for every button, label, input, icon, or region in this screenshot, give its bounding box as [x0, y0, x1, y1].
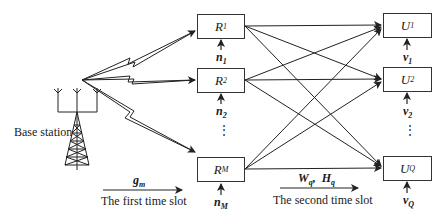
user-name: U [400, 161, 409, 177]
relay-sub: 2 [223, 76, 227, 85]
user-name: U [401, 18, 410, 34]
wireless-links [82, 31, 195, 152]
second-slot-channels: Wq, Hq [298, 171, 335, 187]
relay-noise-2: n2 [216, 104, 227, 120]
relay-name: R [215, 73, 223, 89]
user-sub: 2 [410, 75, 414, 84]
user-node-1: U1 [383, 13, 432, 38]
user-sub: 1 [410, 21, 414, 30]
relay-node-2: R2 [197, 68, 245, 93]
relay-name: R [214, 162, 222, 178]
user-noise-q: vQ [403, 193, 414, 209]
second-slot-label: The second time slot [273, 193, 373, 208]
relay-name: R [215, 19, 223, 35]
relay-noise-m: nM [214, 195, 228, 211]
relay-node-m: RM [197, 157, 245, 182]
user-ellipsis: ⋮ [404, 128, 416, 133]
user-name: U [401, 72, 410, 88]
relay-sub: M [222, 165, 229, 174]
user-sub: Q [409, 164, 415, 173]
user-noise-1: v1 [403, 50, 412, 66]
relay-sub: 1 [223, 22, 227, 31]
relay-user-links [245, 25, 381, 169]
user-noise-2: v2 [403, 104, 412, 120]
relay-noise-1: n1 [216, 50, 227, 66]
relay-ellipsis: ⋮ [218, 128, 230, 133]
first-slot-label: The first time slot [101, 194, 187, 209]
first-slot-channel: gm [133, 173, 145, 189]
user-node-q: UQ [383, 156, 432, 181]
user-node-2: U2 [383, 67, 432, 92]
relay-node-1: R1 [197, 14, 245, 39]
base-station-label: Base station [14, 125, 72, 140]
